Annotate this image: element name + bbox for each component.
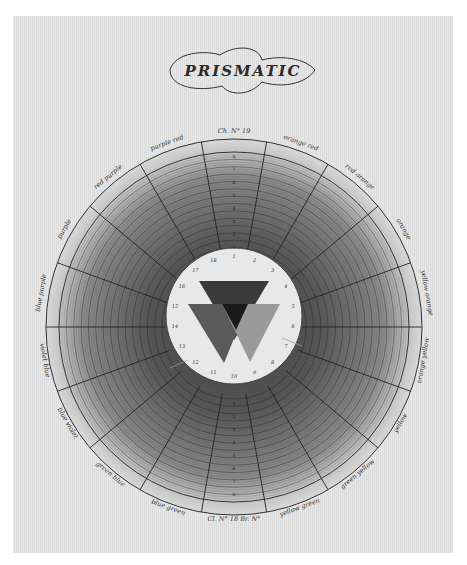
ring-number: 4 <box>233 440 236 445</box>
inner-number: 3 <box>271 267 274 273</box>
inner-number: 10 <box>231 373 238 379</box>
inner-number: 2 <box>252 257 256 263</box>
ring-number: 6 <box>233 180 236 185</box>
inner-number: 14 <box>172 323 178 329</box>
segment-label: Cl. N° 18 Br. N° <box>208 515 261 523</box>
ring-number: 2 <box>233 232 236 237</box>
prismatic-wheel-diagram: PRISMATIC 123456789101112131415161718 Ch… <box>0 0 467 565</box>
ring-number: 1 <box>233 401 236 406</box>
ring-number: 5 <box>233 453 236 458</box>
ring-number: 5 <box>233 193 236 198</box>
plate-title: PRISMATIC <box>183 62 301 80</box>
inner-number: 18 <box>210 257 216 263</box>
ring-number: 2 <box>233 414 236 419</box>
inner-number: 16 <box>179 283 186 289</box>
inner-number: 12 <box>192 359 198 365</box>
inner-number: 5 <box>291 303 294 309</box>
ring-number: 1 <box>233 245 236 250</box>
ring-number: 3 <box>233 219 236 224</box>
ring-number: 7 <box>233 479 236 484</box>
ring-number: 3 <box>233 427 236 432</box>
ring-number: 4 <box>233 206 236 211</box>
color-wheel: 123456789101112131415161718 Ch. N° 19ora… <box>34 127 435 523</box>
ring-number: 6 <box>233 466 236 471</box>
inner-number: 8 <box>271 359 274 365</box>
ring-number: 8 <box>233 154 236 159</box>
title-cartouche: PRISMATIC <box>170 48 315 93</box>
ring-number: 8 <box>233 492 236 497</box>
inner-number: 4 <box>283 283 287 289</box>
inner-number: 17 <box>192 267 199 273</box>
segment-label: Ch. N° 19 <box>218 127 251 135</box>
inner-number: 1 <box>232 253 235 259</box>
inner-number: 15 <box>172 303 178 309</box>
inner-number: 11 <box>210 369 216 375</box>
segment-label: blue purple <box>34 273 48 312</box>
ring-number: 7 <box>233 167 236 172</box>
inner-number: 13 <box>179 343 185 349</box>
